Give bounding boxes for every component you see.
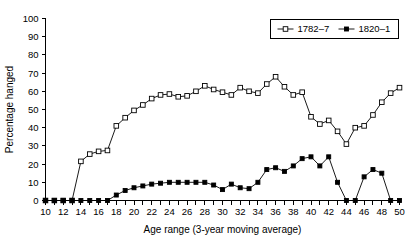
data-point-series-1 — [141, 103, 146, 108]
y-axis-tick-label: 40 — [28, 122, 39, 133]
legend-label-1: 1782–7 — [298, 23, 330, 34]
data-point-series-2 — [70, 199, 74, 203]
data-point-series-2 — [336, 180, 340, 184]
x-axis-tick-label: 32 — [235, 206, 246, 217]
data-point-series-1 — [247, 89, 252, 94]
data-point-series-1 — [397, 85, 402, 90]
x-axis-tick-label: 22 — [146, 206, 157, 217]
data-point-series-2 — [203, 180, 207, 184]
x-axis-tick-label: 42 — [323, 206, 334, 217]
y-axis-tick-label: 100 — [23, 13, 39, 24]
data-point-series-2 — [238, 186, 242, 190]
data-point-series-1 — [300, 90, 305, 95]
data-point-series-1 — [353, 125, 358, 130]
data-point-series-1 — [220, 90, 225, 95]
data-point-series-2 — [247, 187, 251, 191]
data-point-series-1 — [194, 89, 199, 94]
data-point-series-2 — [114, 193, 118, 197]
x-axis-tick-label: 20 — [129, 206, 140, 217]
x-axis-tick-label: 48 — [377, 206, 388, 217]
percentage-hanged-line-chart: 0102030405060708090100101214161820222426… — [0, 0, 406, 245]
x-axis-tick-label: 50 — [394, 206, 405, 217]
data-point-series-1 — [114, 124, 119, 129]
data-point-series-1 — [264, 82, 269, 87]
y-axis-title: Percentage hanged — [4, 66, 15, 153]
series-line-1 — [46, 77, 400, 201]
data-point-series-2 — [265, 168, 269, 172]
data-point-series-2 — [309, 155, 313, 159]
data-point-series-2 — [274, 166, 278, 170]
x-axis-tick-label: 40 — [306, 206, 317, 217]
data-point-series-1 — [362, 124, 367, 129]
data-point-series-1 — [229, 93, 234, 98]
data-point-series-2 — [88, 199, 92, 203]
x-axis-tick-label: 14 — [76, 206, 87, 217]
data-point-series-1 — [87, 152, 92, 157]
y-axis-tick-label: 50 — [28, 104, 39, 115]
legend-marker-1 — [283, 27, 288, 32]
data-point-series-2 — [79, 199, 83, 203]
x-axis-tick-label: 24 — [164, 206, 175, 217]
data-point-series-1 — [380, 100, 385, 105]
data-point-series-1 — [105, 148, 110, 153]
data-point-series-2 — [380, 171, 384, 175]
chart-figure: 0102030405060708090100101214161820222426… — [0, 0, 406, 245]
data-point-series-1 — [282, 84, 287, 89]
data-point-series-1 — [167, 92, 172, 97]
y-axis-tick-label: 30 — [28, 140, 39, 151]
data-point-series-2 — [327, 155, 331, 159]
data-point-series-2 — [61, 199, 65, 203]
x-axis-tick-label: 12 — [58, 206, 69, 217]
data-point-series-1 — [388, 91, 393, 96]
legend-label-2: 1820–1 — [359, 23, 391, 34]
data-point-series-1 — [335, 129, 340, 134]
y-axis-tick-label: 10 — [28, 177, 39, 188]
y-axis-tick-label: 60 — [28, 86, 39, 97]
data-point-series-2 — [132, 186, 136, 190]
data-point-series-1 — [318, 122, 323, 127]
data-point-series-2 — [105, 199, 109, 203]
data-point-series-2 — [362, 175, 366, 179]
data-point-series-2 — [150, 182, 154, 186]
data-point-series-1 — [96, 149, 101, 154]
data-point-series-2 — [44, 199, 48, 203]
x-axis-tick-label: 10 — [40, 206, 51, 217]
x-axis-tick-label: 44 — [341, 206, 352, 217]
data-point-series-2 — [300, 157, 304, 161]
y-axis-tick-label: 70 — [28, 68, 39, 79]
data-point-series-2 — [256, 180, 260, 184]
data-point-series-1 — [238, 85, 243, 90]
y-axis-tick-label: 0 — [33, 195, 38, 206]
data-point-series-2 — [371, 168, 375, 172]
x-axis-tick-label: 26 — [182, 206, 193, 217]
data-point-series-1 — [158, 93, 163, 98]
data-point-series-2 — [389, 199, 393, 203]
data-point-series-2 — [318, 164, 322, 168]
x-axis-tick-label: 28 — [200, 206, 211, 217]
x-axis-tick-label: 16 — [93, 206, 104, 217]
data-point-series-2 — [123, 188, 127, 192]
data-point-series-2 — [52, 199, 56, 203]
legend-marker-2 — [345, 27, 349, 31]
series-line-2 — [46, 157, 400, 201]
data-point-series-1 — [149, 96, 154, 101]
data-point-series-1 — [185, 94, 190, 99]
data-point-series-2 — [159, 181, 163, 185]
data-point-series-2 — [221, 188, 225, 192]
data-point-series-2 — [229, 182, 233, 186]
y-axis-tick-label: 20 — [28, 159, 39, 170]
x-axis-tick-label: 38 — [288, 206, 299, 217]
data-point-series-1 — [123, 115, 128, 120]
data-point-series-2 — [176, 180, 180, 184]
x-axis-tick-label: 34 — [253, 206, 264, 217]
x-axis-title: Age range (3-year moving average) — [144, 224, 302, 235]
data-point-series-1 — [326, 118, 331, 123]
data-point-series-1 — [256, 91, 261, 96]
y-axis-tick-label: 80 — [28, 49, 39, 60]
data-point-series-2 — [344, 199, 348, 203]
data-point-series-1 — [79, 159, 84, 164]
x-axis-tick-label: 18 — [111, 206, 122, 217]
data-point-series-2 — [185, 180, 189, 184]
data-point-series-2 — [97, 199, 101, 203]
data-point-series-1 — [132, 108, 137, 113]
